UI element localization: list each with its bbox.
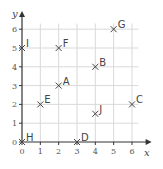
svg-text:6: 6 bbox=[12, 25, 17, 34]
point-d: D bbox=[74, 132, 89, 145]
point-g: G bbox=[111, 19, 126, 32]
point-c: C bbox=[129, 94, 143, 107]
svg-text:3: 3 bbox=[12, 82, 17, 91]
point-i: I bbox=[19, 38, 29, 51]
svg-text:3: 3 bbox=[74, 147, 79, 156]
point-j: J bbox=[92, 104, 102, 117]
svg-text:D: D bbox=[81, 132, 89, 143]
grid-lines bbox=[22, 24, 138, 142]
svg-text:I: I bbox=[26, 38, 29, 49]
svg-text:1: 1 bbox=[12, 119, 17, 128]
svg-text:4: 4 bbox=[12, 63, 17, 72]
svg-text:F: F bbox=[63, 38, 69, 49]
svg-text:2: 2 bbox=[12, 100, 17, 109]
point-e: E bbox=[37, 94, 50, 107]
point-h: H bbox=[19, 132, 34, 145]
svg-text:0: 0 bbox=[19, 147, 24, 156]
y-axis-label: y bbox=[11, 8, 18, 19]
svg-text:5: 5 bbox=[12, 44, 17, 53]
svg-text:1: 1 bbox=[38, 147, 43, 156]
svg-text:6: 6 bbox=[129, 147, 134, 156]
point-f: F bbox=[56, 38, 69, 51]
svg-text:C: C bbox=[136, 94, 143, 105]
svg-text:G: G bbox=[118, 19, 126, 30]
svg-text:J: J bbox=[98, 104, 102, 115]
svg-text:A: A bbox=[63, 76, 70, 87]
svg-text:5: 5 bbox=[111, 147, 116, 156]
svg-text:0: 0 bbox=[12, 138, 17, 147]
point-a: A bbox=[56, 76, 70, 89]
svg-text:B: B bbox=[99, 57, 106, 68]
coordinate-grid-chart: 01234560123456 ABCDEFGHIJ x y bbox=[0, 0, 163, 169]
svg-text:E: E bbox=[44, 94, 50, 105]
point-b: B bbox=[92, 57, 106, 70]
plotted-points: ABCDEFGHIJ bbox=[19, 19, 143, 145]
svg-text:H: H bbox=[26, 132, 34, 143]
x-axis-label: x bbox=[144, 147, 150, 158]
svg-text:2: 2 bbox=[56, 147, 61, 156]
svg-text:4: 4 bbox=[93, 147, 98, 156]
